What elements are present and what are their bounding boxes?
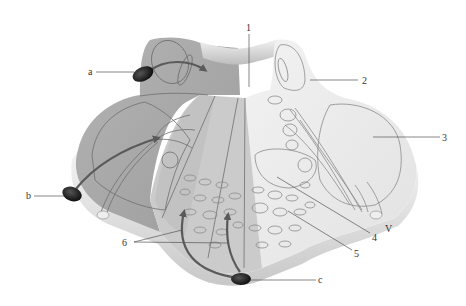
label-1: 1 — [246, 22, 251, 33]
label-3: 3 — [442, 132, 447, 143]
label-V: V — [385, 223, 393, 234]
diagram-canvas: 1 2 3 4 5 6 a b c V — [0, 0, 466, 306]
label-c: c — [318, 274, 323, 285]
right-peduncle-stump — [370, 211, 382, 219]
label-6: 6 — [122, 237, 127, 248]
label-5: 5 — [354, 248, 359, 259]
nucleus-c — [231, 273, 251, 285]
label-b: b — [26, 190, 31, 201]
label-a: a — [88, 66, 93, 77]
label-2: 2 — [362, 75, 367, 86]
left-peduncle-stump — [97, 211, 109, 219]
cerebellum-diagram: 1 2 3 4 5 6 a b c V — [0, 0, 466, 306]
label-4: 4 — [372, 232, 377, 243]
